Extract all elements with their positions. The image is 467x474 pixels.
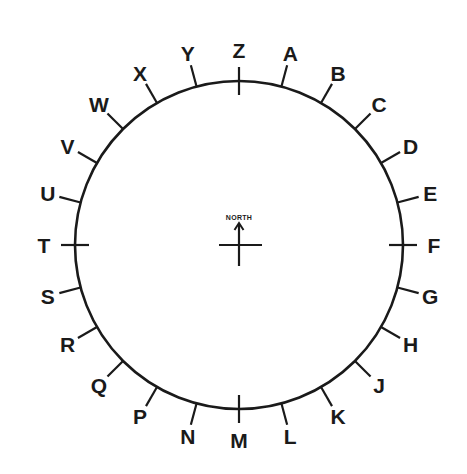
label-j: J: [373, 374, 385, 397]
label-u: U: [40, 182, 55, 205]
tick-d: [381, 152, 400, 163]
label-c: C: [371, 93, 386, 116]
label-h: H: [403, 333, 418, 356]
label-q: Q: [91, 374, 107, 397]
label-g: G: [422, 285, 438, 308]
label-n: N: [180, 425, 195, 448]
tick-q: [107, 361, 123, 377]
north-indicator: NORTH: [219, 214, 262, 266]
label-d: D: [403, 135, 418, 158]
label-l: L: [284, 425, 297, 448]
tick-c: [355, 113, 371, 129]
north-label: NORTH: [226, 214, 252, 221]
tick-v: [78, 152, 97, 163]
tick-b: [321, 84, 332, 103]
tick-a: [281, 65, 287, 86]
label-m: M: [230, 429, 248, 452]
tick-w: [107, 113, 123, 129]
compass-dial: ZABCDEFGHJKLMNPQRSTUVWXY NORTH: [0, 0, 467, 474]
tick-n: [191, 403, 197, 424]
tick-p: [146, 387, 157, 406]
label-k: K: [330, 405, 345, 428]
tick-x: [146, 84, 157, 103]
label-r: R: [60, 333, 75, 356]
tick-h: [381, 327, 400, 338]
label-p: P: [133, 405, 147, 428]
label-z: Z: [233, 39, 246, 62]
tick-r: [78, 327, 97, 338]
label-t: T: [38, 234, 51, 257]
label-a: A: [283, 42, 298, 65]
tick-e: [397, 197, 418, 203]
label-b: B: [330, 62, 345, 85]
tick-g: [397, 287, 418, 293]
tick-l: [281, 403, 287, 424]
label-f: F: [428, 234, 441, 257]
label-e: E: [423, 182, 437, 205]
label-y: Y: [181, 42, 195, 65]
label-s: S: [41, 285, 55, 308]
tick-k: [321, 387, 332, 406]
tick-u: [59, 197, 80, 203]
label-v: V: [61, 135, 75, 158]
label-x: X: [133, 62, 147, 85]
label-w: W: [89, 93, 109, 116]
tick-j: [355, 361, 371, 377]
tick-y: [191, 65, 197, 86]
tick-s: [59, 287, 80, 293]
